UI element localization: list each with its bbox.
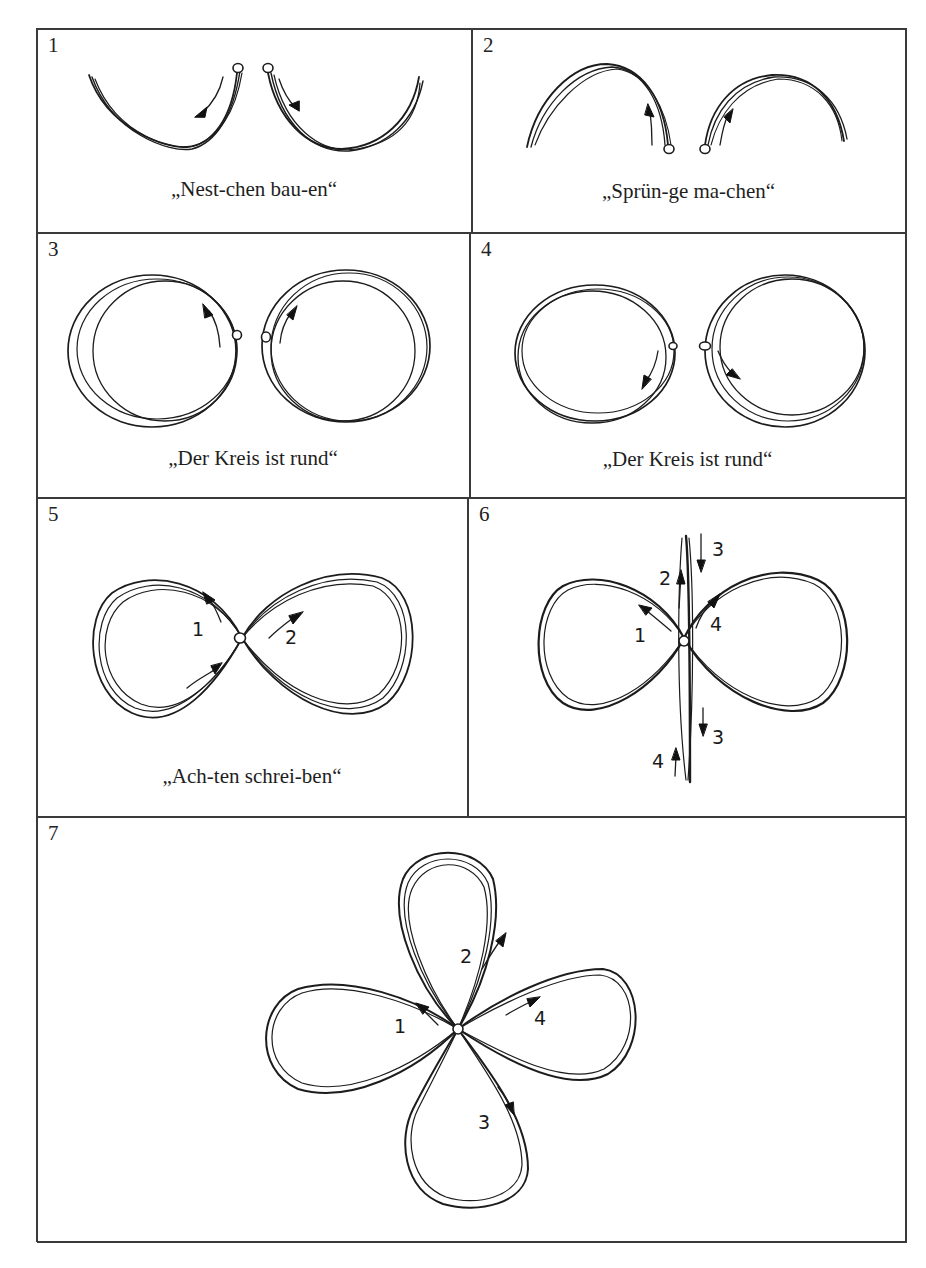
worksheet-page: 1 „Nest-chen bau-en“ 2 [0,0,926,1268]
arrow-down-icon [697,560,705,572]
stroke-label: 3 [478,1111,490,1133]
panel-6: 6 1 2 3 4 3 4 [468,498,905,816]
arrow-down-icon [699,724,707,736]
arrow-up-icon [203,304,213,318]
panel-caption: „Ach-ten schrei-ben“ [37,764,467,789]
start-dot-icon [453,1024,463,1034]
start-dot-icon [679,636,689,646]
start-dot-icon [233,64,243,73]
stroke-label: 2 [460,945,472,967]
stroke-label: 1 [634,624,646,646]
arrow-up-icon [645,104,654,117]
stroke-label: 3 [712,538,724,560]
start-dot-icon [700,342,711,350]
start-dot-icon [664,145,674,154]
stroke-label: 4 [534,1007,546,1029]
arrow-down-icon [195,107,207,117]
panel-2: 2 „Sprün-ge ma-chen“ [472,29,905,232]
panel-7: 7 1 2 3 [37,817,905,1241]
stroke-label: 4 [652,750,664,772]
panel-caption: „Der Kreis ist rund“ [37,446,469,471]
panel-caption: „Sprün-ge ma-chen“ [472,179,905,204]
stroke-label: 3 [712,726,724,748]
arrow-down-icon [642,375,651,389]
panel-1: 1 „Nest-chen bau-en“ [37,29,471,232]
start-dot-icon [700,145,710,154]
stroke-label: 4 [710,613,722,635]
start-dot-icon [235,633,246,643]
arrow-up-icon [287,306,297,320]
arrow-up-icon [677,570,685,584]
start-dot-icon [262,332,271,342]
table-border-right [905,28,907,1242]
panel-caption: „Nest-chen bau-en“ [37,177,471,202]
table-border-bottom [37,1241,907,1243]
panel-4: 4 „Der Kreis ist rund“ [470,233,905,497]
clover-loops-figure: 1 2 3 4 [37,817,905,1241]
start-dot-icon [669,343,677,350]
stroke-label: 1 [394,1015,406,1037]
stroke-label: 2 [285,626,297,648]
figure-eight-with-line-figure: 1 2 3 4 3 4 [468,498,905,816]
arrow-icon [527,997,540,1007]
panel-5: 5 1 2 „Ach-ten schrei-ben“ [37,498,467,816]
start-dot-icon [233,331,242,340]
stroke-label: 2 [659,567,671,589]
stroke-label: 1 [192,618,204,640]
arrow-up-icon [289,612,303,624]
arrow-up-icon [672,748,680,760]
panel-3: 3 „Der Kreis ist rund“ [37,233,469,497]
panel-caption: „Der Kreis ist rund“ [470,447,905,472]
start-dot-icon [263,64,273,73]
